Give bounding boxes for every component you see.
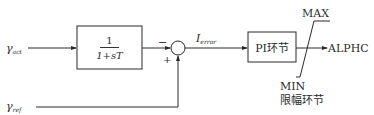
tf-numerator: 1 — [100, 35, 118, 48]
max-label: MAX — [302, 8, 329, 19]
limiter-shape — [296, 21, 330, 77]
summing-junction — [171, 41, 185, 55]
minus-sign: − — [158, 37, 167, 48]
transfer-function: 1 1+sT — [96, 35, 123, 61]
filter-block: 1 1+sT — [77, 26, 142, 69]
pi-block: PI环节 — [248, 32, 296, 62]
plus-sign: + — [163, 55, 171, 65]
output-label: ALPHC — [328, 43, 369, 54]
tf-denominator: 1+sT — [96, 48, 123, 61]
error-signal-label: Ierror — [196, 33, 216, 45]
min-label: MIN — [280, 81, 305, 92]
limiter-name: 限幅环节 — [280, 95, 324, 106]
gamma-act-label: γact — [6, 43, 22, 55]
gamma-ref-label: γref — [6, 101, 21, 113]
